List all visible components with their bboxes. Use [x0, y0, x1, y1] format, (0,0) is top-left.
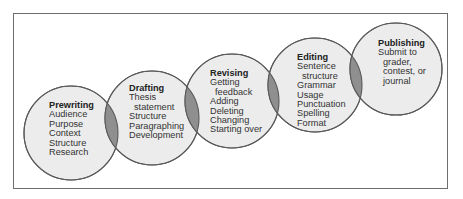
stage-publishing: Publishing Submit to grader, contest, or…	[378, 39, 426, 86]
stage-prewriting: Prewriting Audience Purpose Context Stru…	[49, 101, 94, 157]
stage-item: Starting over	[210, 125, 262, 134]
stage-revising: Revising Getting feedback Adding Deletin…	[210, 69, 262, 135]
stage-item: journal	[378, 77, 426, 86]
stage-drafting: Drafting Thesis statement Structure Para…	[129, 84, 184, 140]
stage-item: Format	[297, 119, 346, 128]
stage-editing: Editing Sentence structure Grammar Usage…	[297, 53, 346, 128]
stage-item: Research	[49, 148, 94, 157]
stage-item: Development	[129, 131, 184, 140]
